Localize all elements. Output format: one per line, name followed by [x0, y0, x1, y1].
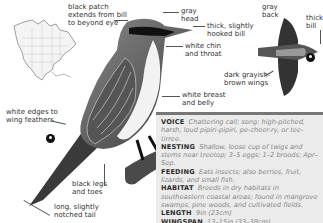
- breast-belly-label: white breastand belly: [182, 91, 226, 107]
- dark-wings-label: dark grayish-brown wings: [224, 71, 270, 87]
- leader-line: [162, 96, 180, 97]
- leader-line: [166, 46, 183, 47]
- chin-throat-label: white chinand throat: [185, 42, 222, 58]
- leader-line: [193, 26, 205, 27]
- view-marker-icon: [306, 53, 315, 62]
- gray-head-label: grayhead: [181, 7, 198, 23]
- leader-line: [320, 30, 321, 44]
- black-patch-label: black patchextends from billto beyond ey…: [68, 3, 127, 27]
- habitat-entry: HABITAT Breeds in dry habitats in southe…: [161, 184, 319, 209]
- hooked-bill-label: thick, slightlyhooked bill: [207, 22, 254, 38]
- leader-line: [163, 12, 179, 13]
- view-marker-icon: [46, 134, 55, 143]
- legs-toes-label: black legsand toes: [72, 180, 107, 196]
- species-info-panel: VOICE Chattering call; song: high-pitche…: [156, 112, 323, 223]
- length-entry: LENGTH 9in (23cm): [161, 209, 319, 217]
- voice-entry: VOICE Chattering call; song: high-pitche…: [161, 118, 319, 143]
- wingspan-entry: WINGSPAN 13–15in (33–38cm): [161, 218, 319, 223]
- leader-line: [104, 164, 105, 186]
- gray-back-label: grayback: [262, 3, 279, 19]
- leader-line: [114, 20, 128, 21]
- wing-edges-label: white edges towing feathers: [6, 108, 58, 124]
- thick-bill-label: thickbill: [306, 14, 323, 30]
- tail-label: long, slightlynotched tail: [54, 203, 99, 219]
- nesting-entry: NESTING Shallow, loose cup of twigs and …: [161, 143, 319, 168]
- feeding-entry: FEEDING Eats insects; also berries, frui…: [161, 168, 319, 185]
